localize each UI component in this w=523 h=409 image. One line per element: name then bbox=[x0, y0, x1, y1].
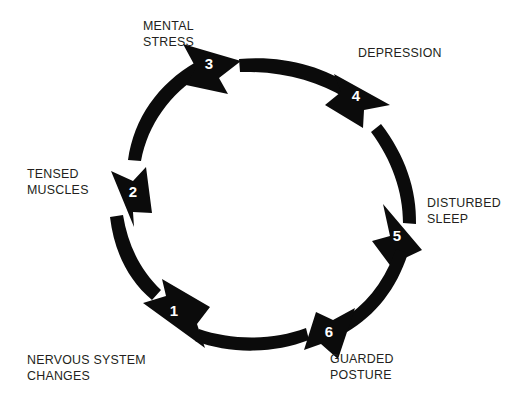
label-nervous-system-changes: NERVOUS SYSTEM CHANGES bbox=[27, 353, 187, 384]
arrow-1-number: 1 bbox=[170, 302, 178, 319]
arrow-6-number: 6 bbox=[325, 323, 333, 340]
label-guarded-posture: GUARDED POSTURE bbox=[330, 352, 440, 383]
cycle-arrow-3[interactable]: 3 bbox=[128, 44, 241, 161]
arrow-3-number: 3 bbox=[205, 55, 213, 72]
cycle-arrow-1[interactable]: 1 bbox=[143, 279, 309, 351]
arrow-4-shape bbox=[239, 58, 352, 98]
arrow-2-shape bbox=[110, 215, 161, 300]
label-depression: DEPRESSION bbox=[358, 46, 498, 62]
cycle-arrow-6[interactable]: 6 bbox=[304, 249, 408, 359]
arrow-2-number: 2 bbox=[129, 183, 137, 200]
arrow-1-shape bbox=[195, 328, 309, 351]
arrow-5-shape bbox=[371, 124, 416, 224]
label-tensed-muscles: TENSED MUSCLES bbox=[27, 167, 127, 198]
cycle-diagram: 3 4 5 6 1 2 bbox=[0, 0, 523, 409]
cycle-arrow-4[interactable]: 4 bbox=[239, 58, 390, 128]
label-mental-stress: MENTAL STRESS bbox=[143, 19, 263, 50]
label-disturbed-sleep: DISTURBED SLEEP bbox=[427, 196, 523, 227]
arrow-5-number: 5 bbox=[393, 227, 401, 244]
arrow-4-number: 4 bbox=[352, 87, 361, 104]
